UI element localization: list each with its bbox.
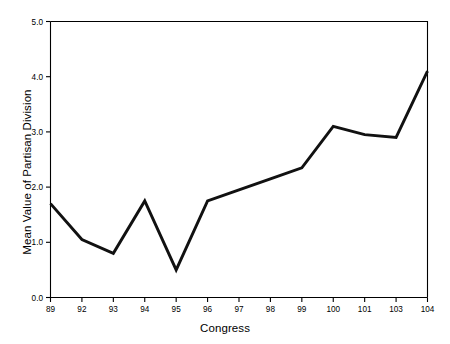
x-tick-label: 99 (297, 305, 307, 314)
chart-container: Mean Value of Partisan Division 0.01.02.… (0, 0, 450, 344)
axis-frame-top-right (51, 22, 428, 298)
x-tick-label: 92 (77, 305, 87, 314)
y-tick-label: 0.0 (32, 294, 44, 303)
x-tick-label: 93 (109, 305, 119, 314)
y-tick-label: 5.0 (32, 18, 44, 27)
x-tick-label: 97 (234, 305, 244, 314)
x-tick-label: 104 (421, 305, 435, 314)
plot-area: 0.01.02.03.04.05.08992939495969798991001… (0, 0, 450, 344)
x-tick-label: 96 (203, 305, 213, 314)
y-tick-label: 3.0 (32, 128, 44, 137)
x-tick-label: 94 (140, 305, 150, 314)
axis-frame-left-bottom (51, 22, 428, 298)
x-axis-title: Congress (0, 322, 450, 334)
x-tick-label: 95 (172, 305, 182, 314)
x-tick-label: 98 (266, 305, 276, 314)
x-tick-label: 101 (358, 305, 372, 314)
x-tick-label: 100 (326, 305, 340, 314)
y-tick-label: 1.0 (32, 238, 44, 247)
data-series-line (51, 71, 428, 270)
y-tick-label: 2.0 (32, 183, 44, 192)
x-tick-label: 89 (46, 305, 56, 314)
x-tick-label: 103 (389, 305, 403, 314)
y-tick-label: 4.0 (32, 73, 44, 82)
